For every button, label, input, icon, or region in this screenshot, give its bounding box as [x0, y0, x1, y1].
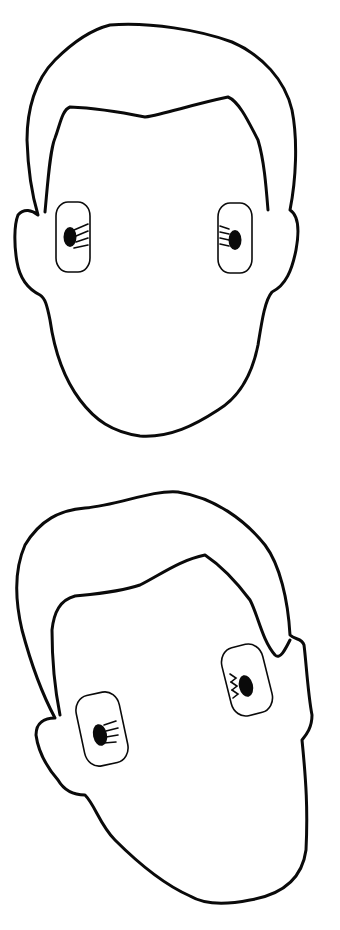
face-upright: [15, 24, 298, 436]
right-eye: [218, 203, 252, 273]
left-eye: [56, 202, 90, 272]
hairline: [45, 97, 268, 212]
face-tilted: [17, 492, 312, 904]
figure-canvas: [0, 0, 340, 930]
